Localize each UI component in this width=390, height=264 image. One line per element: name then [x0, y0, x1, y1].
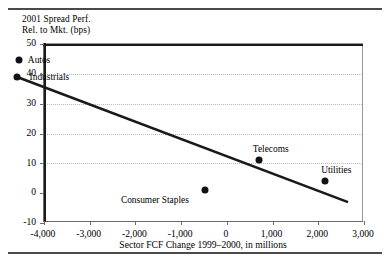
plot-area: AutosIndustrialsConsumer StaplesTelecoms…: [43, 43, 363, 222]
x-tick-label: 3,000: [333, 229, 390, 239]
data-point: [15, 57, 22, 64]
data-point: [201, 187, 208, 194]
data-point-label: Telecoms: [253, 145, 289, 154]
x-tick: [364, 221, 365, 225]
x-tick: [44, 221, 45, 225]
x-tick: [273, 221, 274, 225]
y-tick-label: 10: [2, 158, 36, 168]
y-tick-label: 20: [2, 128, 36, 138]
top-rule: [8, 8, 382, 10]
x-tick: [318, 221, 319, 225]
y-tick-label: -10: [2, 217, 36, 227]
data-point: [255, 157, 262, 164]
x-tick: [227, 221, 228, 225]
y-tick: [40, 74, 44, 75]
y-tick-label: 30: [2, 98, 36, 108]
y-tick-label: 50: [2, 38, 36, 48]
figure-container: 2001 Spread Perf. Rel. to Mkt. (bps) Aut…: [0, 0, 390, 264]
y-tick: [40, 134, 44, 135]
y-tick: [40, 104, 44, 105]
data-point-label: Autos: [28, 56, 50, 65]
bottom-rule: [8, 252, 382, 254]
y-tick: [40, 163, 44, 164]
trend-line: [44, 44, 364, 223]
y-tick-label: 0: [2, 187, 36, 197]
data-point: [322, 178, 329, 185]
x-tick: [135, 221, 136, 225]
x-axis-title: Sector FCF Change 1999–2000, in millions: [43, 240, 363, 250]
y-tick-label: 40: [2, 68, 36, 78]
x-tick: [90, 221, 91, 225]
y-tick: [40, 193, 44, 194]
y-tick: [40, 44, 44, 45]
x-tick: [181, 221, 182, 225]
data-point-label: Consumer Staples: [121, 196, 189, 205]
y-axis-title: 2001 Spread Perf. Rel. to Mkt. (bps): [22, 14, 91, 36]
data-point-label: Utilities: [321, 166, 351, 175]
